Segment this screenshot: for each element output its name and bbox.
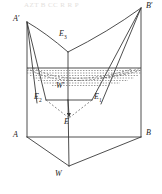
label-B-prime: B′ [146, 2, 153, 10]
water-boundary-curves [27, 68, 141, 81]
label-A-prime: A′ [13, 15, 20, 23]
base-edge-B-W [69, 137, 141, 166]
line-B-prime-inner [101, 8, 141, 104]
line-A-prime-inner [27, 22, 37, 103]
figure-canvas [0, 0, 162, 194]
line-A-prime-to-E2 [27, 22, 46, 100]
label-E3: E3 [59, 30, 67, 40]
ghost-text-top: AZT B CC R R P [24, 1, 79, 9]
dashed-E1-to-E [69, 100, 92, 118]
base-edge-A-W [27, 137, 69, 166]
dashed-E2-to-E [46, 100, 69, 118]
label-B: B [146, 129, 151, 137]
label-E: E [64, 118, 69, 126]
label-E1: E1 [94, 93, 102, 103]
curve-E3-to-B-prime [68, 8, 141, 52]
label-W-prime: W′ [56, 82, 64, 90]
water-arc-front [27, 68, 141, 81]
label-W: W [55, 170, 62, 178]
label-A: A [13, 131, 18, 139]
line-B-prime-to-E1 [92, 8, 141, 100]
geometry-figure: AZT B CC R R P A′ B′ E3 W′ E2 E1 E A B W [0, 0, 162, 194]
label-E2: E2 [34, 93, 42, 103]
